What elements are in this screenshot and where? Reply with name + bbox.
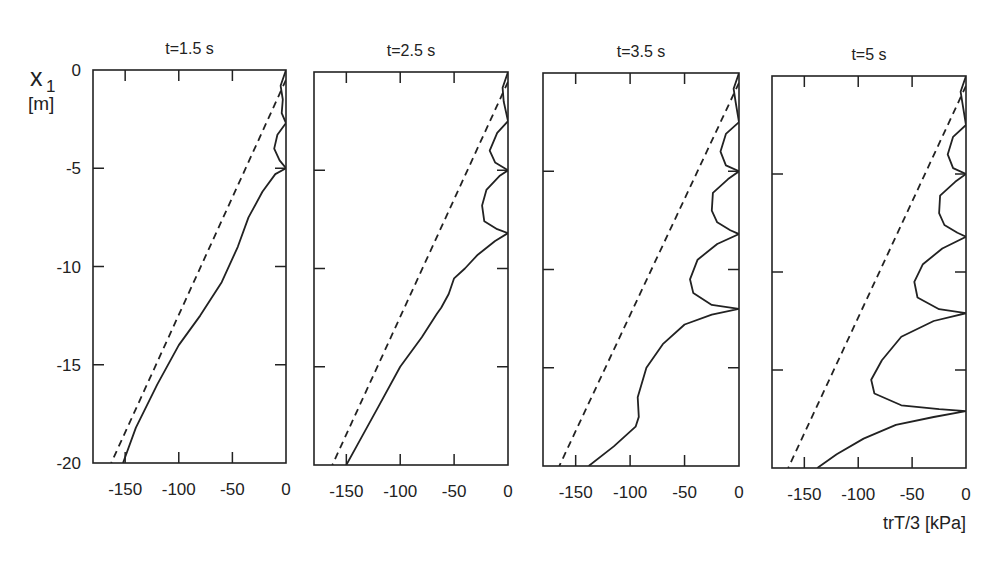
x-tick-label: -150 bbox=[787, 485, 821, 504]
x-tick-label: -50 bbox=[220, 480, 245, 499]
x-tick-label: -100 bbox=[841, 485, 875, 504]
panel-title: t=1.5 s bbox=[165, 40, 213, 57]
x-tick-label: -150 bbox=[108, 480, 142, 499]
panel-4: t=5 s-150-100-500 bbox=[772, 46, 971, 504]
dashed-reference-line bbox=[332, 82, 508, 465]
panel-title: t=5 s bbox=[851, 46, 886, 63]
figure: t=1.5 s-150-100-5000-5-10-15-20t=2.5 s-1… bbox=[0, 0, 1003, 561]
solution-curve bbox=[123, 70, 286, 463]
dashed-reference-line bbox=[111, 80, 286, 463]
solution-curve bbox=[346, 72, 508, 465]
panel-2: t=2.5 s-150-100-500 bbox=[314, 42, 513, 501]
y-tick-label: 0 bbox=[72, 61, 81, 80]
panel-title: t=3.5 s bbox=[617, 43, 665, 60]
y-tick-label: -5 bbox=[66, 159, 81, 178]
x-tick-label: -100 bbox=[162, 480, 196, 499]
x-tick-label: -50 bbox=[672, 483, 697, 502]
x-tick-label: -150 bbox=[329, 482, 363, 501]
y-axis-label-x: x bbox=[30, 63, 43, 91]
x-tick-label: -150 bbox=[559, 483, 593, 502]
dashed-reference-line bbox=[788, 86, 966, 468]
x-tick-label: -100 bbox=[613, 483, 647, 502]
x-axis-label: trT/3 [kPa] bbox=[883, 513, 966, 533]
y-tick-label: -15 bbox=[56, 356, 81, 375]
plot-frame bbox=[543, 73, 739, 466]
x-tick-label: -100 bbox=[383, 482, 417, 501]
y-tick-label: -10 bbox=[56, 258, 81, 277]
panel-title: t=2.5 s bbox=[387, 42, 435, 59]
x-tick-label: 0 bbox=[281, 480, 290, 499]
x-tick-label: -50 bbox=[442, 482, 467, 501]
y-tick-label: -20 bbox=[56, 454, 81, 473]
dashed-reference-line bbox=[559, 83, 739, 466]
y-axis-label-unit: [m] bbox=[28, 93, 54, 114]
panel-3: t=3.5 s-150-100-500 bbox=[543, 43, 744, 502]
plot-frame bbox=[93, 70, 286, 463]
x-tick-label: -50 bbox=[900, 485, 925, 504]
x-tick-label: 0 bbox=[961, 485, 970, 504]
x-tick-label: 0 bbox=[734, 483, 743, 502]
x-tick-label: 0 bbox=[503, 482, 512, 501]
panel-1: t=1.5 s-150-100-5000-5-10-15-20 bbox=[56, 40, 290, 499]
plot-frame bbox=[314, 72, 508, 465]
